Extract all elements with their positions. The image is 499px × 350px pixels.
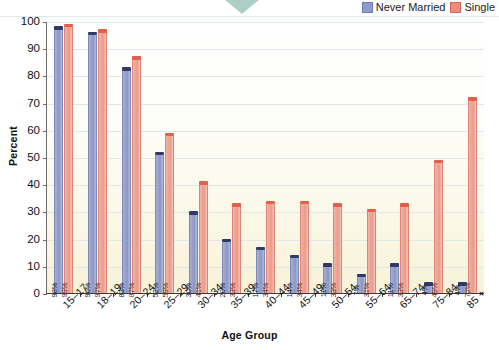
bar-body bbox=[266, 204, 275, 293]
bar-cap bbox=[357, 274, 366, 278]
bar-body bbox=[333, 206, 342, 293]
bar-pair: 52%59% bbox=[148, 22, 182, 293]
decorative-chevron-icon bbox=[206, 0, 278, 14]
bar-group: 14%34% bbox=[282, 22, 316, 293]
axis-depth-line bbox=[485, 274, 499, 295]
bar-cap bbox=[64, 24, 73, 28]
bar-body bbox=[88, 35, 97, 293]
bar-single[interactable]: 41% bbox=[199, 181, 208, 293]
bar-cap bbox=[290, 255, 299, 259]
bar-body bbox=[468, 100, 477, 293]
y-axis-tick-label: 70 bbox=[0, 98, 47, 110]
bar-cap bbox=[132, 56, 141, 60]
y-axis-tick-label: 60 bbox=[0, 125, 47, 137]
legend-item-never-married: Never Married bbox=[362, 1, 446, 13]
bar-cap bbox=[155, 152, 164, 156]
bar-single[interactable]: 33% bbox=[400, 203, 409, 293]
y-axis-tick-label: 0 bbox=[0, 288, 47, 300]
bar-body bbox=[367, 212, 376, 293]
bar-pair: 20%33% bbox=[215, 22, 249, 293]
bar-cap bbox=[232, 203, 241, 207]
bar-cap bbox=[222, 239, 231, 243]
bar-body bbox=[189, 214, 198, 293]
bar-group: 4%49% bbox=[417, 22, 451, 293]
bar-single[interactable]: 33% bbox=[333, 203, 342, 293]
bar-group: 11%33% bbox=[316, 22, 350, 293]
legend-label-never-married: Never Married bbox=[376, 1, 446, 13]
bar-body bbox=[54, 29, 63, 293]
bar-cap bbox=[54, 26, 63, 30]
bar-never-married[interactable]: 83% bbox=[122, 67, 131, 293]
bar-never-married[interactable]: 98% bbox=[54, 26, 63, 293]
bar-group: 98%99% bbox=[47, 22, 81, 293]
y-axis-tick-label: 80 bbox=[0, 71, 47, 83]
y-axis-tick-label: 40 bbox=[0, 179, 47, 191]
bar-cap bbox=[122, 67, 131, 71]
bar-cap bbox=[367, 209, 376, 213]
bar-never-married[interactable]: 52% bbox=[155, 152, 164, 293]
y-axis-tick-mark bbox=[43, 294, 47, 295]
bar-cap bbox=[88, 32, 97, 36]
bar-body bbox=[165, 136, 174, 293]
bar-cap bbox=[199, 181, 208, 185]
bar-body bbox=[122, 70, 131, 293]
bar-body bbox=[434, 163, 443, 293]
bar-body bbox=[155, 155, 164, 293]
legend-swatch-never-married bbox=[362, 2, 373, 13]
bar-single[interactable]: 34% bbox=[300, 201, 309, 293]
bar-pair: 83%87% bbox=[114, 22, 148, 293]
x-axis-title: Age Group bbox=[0, 329, 499, 341]
bar-group: 7%31% bbox=[349, 22, 383, 293]
bar-body bbox=[232, 206, 241, 293]
bar-body bbox=[400, 206, 409, 293]
y-axis-tick-label: 10 bbox=[0, 261, 47, 273]
bar-cap bbox=[390, 263, 399, 267]
bar-single[interactable]: 31% bbox=[367, 209, 376, 293]
bar-pair: 14%34% bbox=[282, 22, 316, 293]
bar-cap bbox=[434, 160, 443, 164]
bar-pair: 98%99% bbox=[47, 22, 81, 293]
bar-group: 96%97% bbox=[81, 22, 115, 293]
bar-pair: 17%34% bbox=[249, 22, 283, 293]
bar-pair: 7%31% bbox=[349, 22, 383, 293]
bar-pair: 4%72% bbox=[450, 22, 484, 293]
y-axis-tick-label: 90 bbox=[0, 43, 47, 55]
y-axis-title: Percent bbox=[7, 111, 19, 181]
bar-never-married[interactable]: 30% bbox=[189, 211, 198, 293]
bar-cap bbox=[98, 29, 107, 33]
bar-body bbox=[199, 184, 208, 293]
y-axis-tick-label: 20 bbox=[0, 234, 47, 246]
bar-single[interactable]: 59% bbox=[165, 133, 174, 293]
bar-pair: 11%33% bbox=[383, 22, 417, 293]
bar-cap bbox=[400, 203, 409, 207]
bar-single[interactable]: 34% bbox=[266, 201, 275, 293]
bar-group: 83%87% bbox=[114, 22, 148, 293]
bar-pair: 11%33% bbox=[316, 22, 350, 293]
bar-pair: 30%41% bbox=[181, 22, 215, 293]
bar-body bbox=[132, 59, 141, 293]
chart-figure: Never Married Single Percent 01020304050… bbox=[0, 0, 499, 350]
legend-label-single: Single bbox=[464, 1, 495, 13]
bar-single[interactable]: 49% bbox=[434, 160, 443, 293]
bar-group: 20%33% bbox=[215, 22, 249, 293]
y-axis-tick-label: 30 bbox=[0, 207, 47, 219]
bar-single[interactable]: 97% bbox=[98, 29, 107, 293]
bar-body bbox=[300, 204, 309, 293]
bar-group: 17%34% bbox=[249, 22, 283, 293]
bar-pair: 96%97% bbox=[81, 22, 115, 293]
bar-single[interactable]: 72% bbox=[468, 97, 477, 293]
y-axis-tick-label: 100 bbox=[0, 16, 47, 28]
bar-single[interactable]: 99% bbox=[64, 24, 73, 293]
bar-cap bbox=[256, 247, 265, 251]
y-axis-tick-label: 50 bbox=[0, 152, 47, 164]
bar-cap bbox=[468, 97, 477, 101]
bar-body bbox=[98, 32, 107, 293]
bar-group: 11%33% bbox=[383, 22, 417, 293]
bar-body bbox=[64, 27, 73, 293]
bar-cap bbox=[266, 201, 275, 205]
plot-area: 010203040506070809010098%99%96%97%83%87%… bbox=[46, 22, 484, 294]
bar-never-married[interactable]: 96% bbox=[88, 32, 97, 293]
bar-group: 4%72% bbox=[450, 22, 484, 293]
bar-single[interactable]: 33% bbox=[232, 203, 241, 293]
bar-single[interactable]: 87% bbox=[132, 56, 141, 293]
